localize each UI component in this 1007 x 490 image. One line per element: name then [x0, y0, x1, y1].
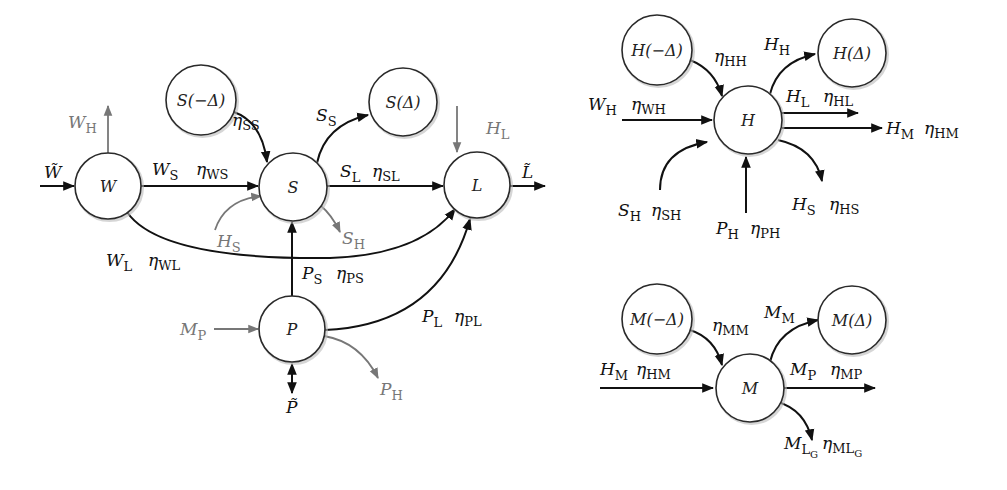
node-label: S: [288, 178, 299, 197]
node-label: H(Δ): [832, 44, 871, 63]
node-label: S(Δ): [386, 93, 421, 112]
node-label: M(−Δ): [629, 310, 684, 329]
node-label: H(−Δ): [630, 41, 682, 60]
label-h-l-h: HL: [785, 86, 810, 110]
node-m-minus: M(−Δ): [622, 284, 694, 356]
node-l: L: [444, 152, 512, 220]
label-h-m-m: HM: [599, 359, 628, 383]
label-eta-hh: ηHH: [714, 46, 747, 69]
label-eta-wh: ηWH: [631, 94, 666, 117]
label-p-h-main: PH: [379, 379, 403, 403]
node-label: P: [286, 320, 298, 339]
edge-m-minus-to-m: [690, 330, 722, 365]
node-label: W: [100, 177, 118, 196]
label-m-lg: MLG: [783, 433, 818, 460]
label-eta-mlg: ηMLG: [822, 433, 862, 459]
node-label: M(Δ): [831, 311, 872, 330]
node-label: M: [741, 379, 759, 398]
node-w: W: [75, 153, 143, 221]
flow-diagram: WS(−Δ)SS(Δ)LPH(−Δ)HH(Δ)M(−Δ)MM(Δ) W̃ WH …: [0, 0, 1007, 490]
label-eta-ws: ηWS: [196, 159, 228, 182]
label-h-h: HH: [763, 34, 790, 58]
edge-m-to-m-plus: [770, 320, 818, 362]
edge-h-to-s: [215, 196, 261, 230]
node-h: H: [714, 86, 784, 156]
label-s-l: SL: [340, 161, 361, 185]
label-p-h-h: PH: [715, 218, 739, 242]
label-eta-sh: ηSH: [651, 200, 681, 223]
label-w-s: WS: [152, 159, 178, 183]
node-h-plus: H(Δ): [818, 19, 888, 89]
node-label: S(−Δ): [177, 91, 225, 110]
nodes: WS(−Δ)SS(Δ)LPH(−Δ)HH(Δ)M(−Δ)MM(Δ): [75, 15, 888, 424]
node-s: S: [259, 153, 329, 223]
label-w-tilde: W̃: [44, 162, 63, 182]
label-eta-hm-h: ηHM: [924, 118, 959, 141]
node-h-minus: H(−Δ): [622, 15, 694, 87]
node-p: P: [259, 296, 327, 364]
label-w-l: WL: [106, 250, 132, 274]
label-m-p-m: MP: [789, 359, 816, 383]
label-h-m-h: HM: [885, 118, 914, 142]
label-p-tilde: P̃: [285, 397, 298, 417]
node-m-plus: M(Δ): [818, 286, 888, 356]
label-eta-hs: ηHS: [829, 194, 859, 217]
label-p-l: PL: [421, 306, 442, 330]
node-s-minus: S(−Δ): [166, 65, 238, 137]
edge-p-to-h: [324, 336, 378, 378]
label-eta-mp: ηMP: [830, 359, 862, 382]
node-label: H: [740, 111, 756, 130]
label-l-tilde: L̃: [521, 162, 533, 182]
label-h-s-h: HS: [791, 194, 816, 218]
node-label: L: [471, 176, 483, 195]
label-s-h-main: SH: [342, 228, 365, 252]
label-eta-hm-m: ηHM: [636, 359, 671, 382]
label-eta-wl: ηWL: [148, 250, 181, 273]
label-s-h-h: SH: [618, 200, 641, 224]
label-eta-sl: ηSL: [372, 161, 400, 184]
node-m: M: [716, 354, 786, 424]
label-eta-ph: ηPH: [750, 218, 780, 241]
label-h-l: HL: [485, 118, 510, 142]
label-p-s: PS: [301, 263, 322, 287]
label-w-h: WH: [68, 112, 97, 136]
label-eta-mm: ηMM: [712, 315, 749, 338]
label-m-m: MM: [763, 302, 795, 326]
edge-h-to-s-h: [778, 140, 822, 181]
node-s-plus: S(Δ): [369, 68, 439, 138]
label-m-p-main: MP: [179, 319, 206, 343]
label-eta-pl: ηPL: [454, 306, 482, 329]
edge-s-to-h-h: [660, 142, 707, 190]
label-w-h-h: WH: [588, 94, 617, 118]
label-s-s: SS: [316, 105, 337, 129]
label-eta-ps: ηPS: [336, 263, 364, 286]
label-eta-ss: ηSS: [232, 110, 260, 133]
